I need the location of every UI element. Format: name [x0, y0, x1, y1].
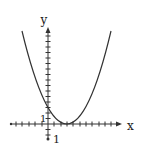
- y-axis-label: y: [40, 13, 48, 27]
- y-tick-label-1: 1: [40, 113, 46, 124]
- y-axis-arrow-icon: [46, 27, 51, 33]
- x-axis-arrow-icon: [116, 122, 122, 127]
- x-tick-label-1: 1: [53, 133, 60, 146]
- parabola-graph: y x 1 1: [0, 0, 141, 146]
- parabola-curve: [22, 31, 111, 124]
- x-axis-label: x: [127, 119, 134, 133]
